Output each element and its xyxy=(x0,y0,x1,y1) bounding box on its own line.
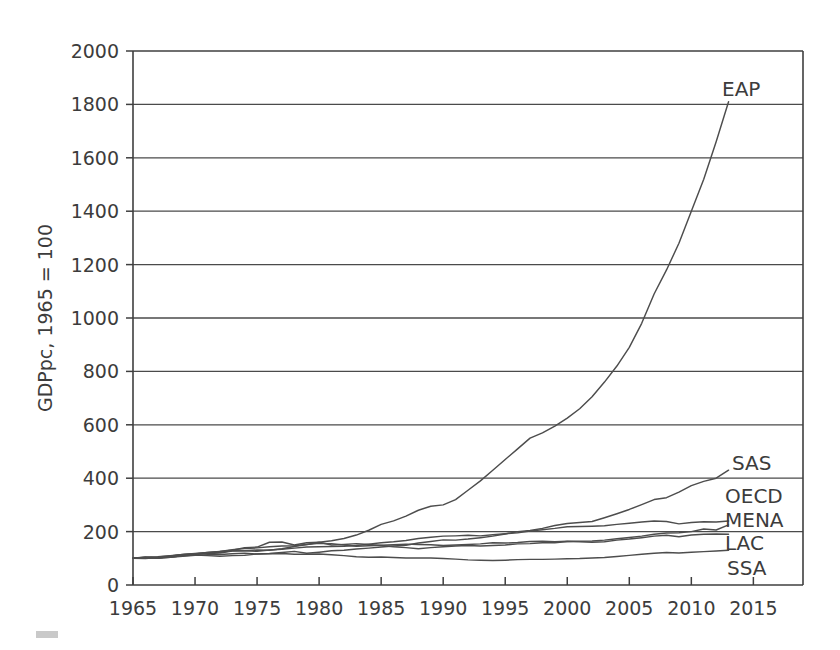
x-tick-label-2015: 2015 xyxy=(729,597,777,619)
x-tick-label-2010: 2010 xyxy=(667,597,715,619)
y-tick-label-1200: 1200 xyxy=(71,254,119,276)
figure-container: 0200400600800100012001400160018002000 19… xyxy=(0,0,840,650)
x-tick-label-1995: 1995 xyxy=(481,597,529,619)
x-tick-label-2000: 2000 xyxy=(543,597,591,619)
series-label-mena: MENA xyxy=(725,508,784,532)
line-chart: 0200400600800100012001400160018002000 19… xyxy=(0,0,840,650)
corner-mark xyxy=(36,631,58,638)
series-label-ssa: SSA xyxy=(727,556,767,580)
y-tick-label-0: 0 xyxy=(107,574,119,596)
x-tick-label-1990: 1990 xyxy=(419,597,467,619)
series-label-oecd: OECD xyxy=(725,484,783,508)
series-label-group: EAPSASOECDMENALACSSA xyxy=(722,77,784,580)
series-label-lac: LAC xyxy=(725,531,764,555)
y-tick-label-600: 600 xyxy=(83,414,119,436)
x-tick-label-1965: 1965 xyxy=(109,597,157,619)
series-label-eap: EAP xyxy=(722,77,760,101)
x-tick-label-1980: 1980 xyxy=(295,597,343,619)
y-tick-label-1000: 1000 xyxy=(71,307,119,329)
y-tick-label-1600: 1600 xyxy=(71,147,119,169)
x-tick-label-1975: 1975 xyxy=(233,597,281,619)
gridlines-group xyxy=(133,104,803,531)
y-axis-title: GDPpc, 1965 = 100 xyxy=(34,224,56,412)
series-label-sas: SAS xyxy=(732,451,771,475)
x-tick-group: 1965197019751980198519901995200020052010… xyxy=(109,577,778,619)
y-tick-label-2000: 2000 xyxy=(71,40,119,62)
y-tick-label-800: 800 xyxy=(83,360,119,382)
y-tick-group: 0200400600800100012001400160018002000 xyxy=(71,40,133,596)
y-tick-label-1800: 1800 xyxy=(71,93,119,115)
series-line-eap xyxy=(133,102,729,559)
series-group xyxy=(133,102,729,561)
y-tick-label-200: 200 xyxy=(83,521,119,543)
y-tick-label-1400: 1400 xyxy=(71,200,119,222)
y-tick-label-400: 400 xyxy=(83,467,119,489)
x-tick-label-1985: 1985 xyxy=(357,597,405,619)
x-tick-label-1970: 1970 xyxy=(171,597,219,619)
x-tick-label-2005: 2005 xyxy=(605,597,653,619)
